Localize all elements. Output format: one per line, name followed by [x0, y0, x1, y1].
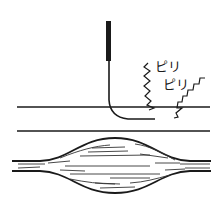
muscle-outline-top	[12, 138, 211, 161]
acupuncture-diagram	[0, 0, 223, 212]
muscle-fibers	[18, 144, 210, 188]
tingle-label-1: ピリ	[155, 60, 181, 73]
tingle-label-2: ピリ	[163, 78, 189, 91]
tingle-zigzag-1	[144, 63, 154, 110]
needle-handle	[106, 21, 111, 61]
